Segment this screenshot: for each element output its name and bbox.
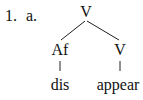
tree-right-leaf: appear [97, 77, 140, 93]
tree-right-child-node: V [114, 42, 126, 58]
tree-left-child-node: Af [52, 42, 69, 58]
tree-left-leaf: dis [51, 77, 70, 93]
